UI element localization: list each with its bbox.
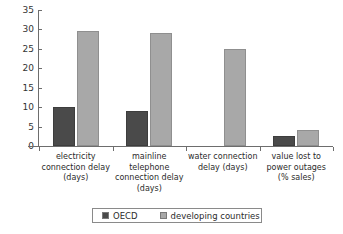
y-axis-tick-label: 30 (23, 24, 34, 34)
x-axis-category-labels: electricityconnection delay(days)mainlin… (28, 152, 334, 198)
y-axis-tick-mark (38, 88, 42, 89)
legend-label-developing-countries: developing countries (171, 211, 260, 221)
bar-oecd (273, 136, 295, 146)
legend-item-developing-countries: developing countries (160, 211, 260, 221)
bar-oecd (53, 107, 75, 146)
legend-label-oecd: OECD (113, 211, 138, 221)
chart-legend: OECD developing countries (92, 208, 262, 223)
x-axis-category-label-line: power outages (256, 163, 338, 174)
y-axis-tick-label: 25 (23, 44, 34, 54)
bar-chart: 05101520253035 electricityconnection del… (0, 0, 343, 234)
x-axis-category-label-line: connection delay (35, 163, 117, 174)
x-axis-category-label: value lost topower outages(% sales) (256, 152, 338, 184)
x-axis-category-label: electricityconnection delay(days) (35, 152, 117, 184)
x-axis-category-label-line: (days) (35, 173, 117, 184)
y-axis-tick-mark (38, 127, 42, 128)
x-axis-category-label-line: water connection (182, 152, 264, 163)
x-axis-tick-mark (39, 147, 40, 151)
y-axis-tick-mark (38, 107, 42, 108)
x-axis-tick-mark (186, 147, 187, 151)
x-axis-tick-mark (333, 147, 334, 151)
y-axis-tick-label: 35 (23, 5, 34, 15)
y-axis-tick-label: 20 (23, 63, 34, 73)
x-axis-category-label: water connectiondelay (days) (182, 152, 264, 173)
bar-developing-countries (77, 31, 99, 146)
x-axis-category-label-line: value lost to (256, 152, 338, 163)
x-axis-tick-mark (260, 147, 261, 151)
x-axis-category-label-line: mainline (109, 152, 191, 163)
x-axis-category-label-line: electricity (35, 152, 117, 163)
x-axis-line (28, 146, 333, 147)
x-axis-category-label-line: connection delay (109, 173, 191, 184)
bar-oecd (126, 111, 148, 146)
bar-developing-countries (150, 33, 172, 146)
x-axis-category-label-line: telephone (109, 163, 191, 174)
y-axis-tick-label: 15 (23, 83, 34, 93)
y-axis-tick-mark (38, 10, 42, 11)
y-axis-tick-label: 5 (28, 122, 34, 132)
x-axis-category-label: mainlinetelephoneconnection delay(days) (109, 152, 191, 194)
x-axis-category-label-line: delay (days) (182, 163, 264, 174)
x-axis-tick-mark (113, 147, 114, 151)
x-axis-category-label-line: (days) (109, 184, 191, 195)
legend-item-oecd: OECD (102, 211, 138, 221)
y-axis-tick-label: 10 (23, 102, 34, 112)
legend-swatch-developing-countries (160, 212, 167, 219)
y-axis-tick-labels: 05101520253035 (0, 10, 34, 147)
bars-layer (39, 10, 333, 146)
legend-swatch-oecd (102, 212, 109, 219)
y-axis-tick-mark (38, 29, 42, 30)
bar-developing-countries (224, 49, 246, 146)
y-axis-tick-mark (38, 68, 42, 69)
x-axis-category-label-line: (% sales) (256, 173, 338, 184)
y-axis-tick-mark (38, 49, 42, 50)
bar-developing-countries (297, 130, 319, 146)
